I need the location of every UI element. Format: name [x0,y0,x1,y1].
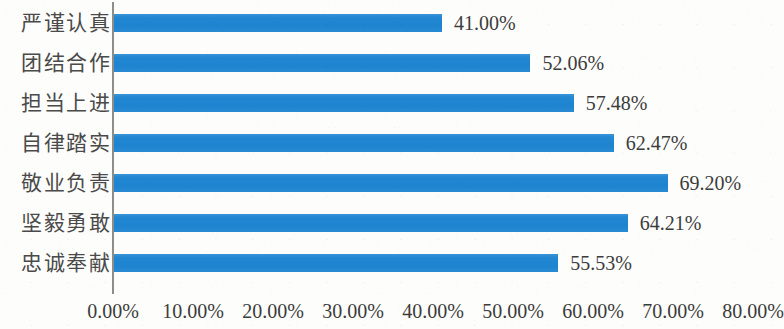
bar-value-label: 64.21% [640,213,702,233]
category-label: 团结合作 [21,53,111,74]
x-tick-label: 30.00% [322,301,384,321]
bar-track [114,134,614,152]
category-label: 坚毅勇敢 [21,213,111,234]
bar-row: 自律踏实 62.47% [0,123,783,163]
x-axis: 0.00% 10.00% 20.00% 30.00% 40.00% 50.00%… [0,297,783,329]
x-tick-label: 70.00% [642,301,704,321]
bar-value-label: 69.20% [680,173,742,193]
bar-fill[interactable] [114,94,574,112]
bar-row: 敬业负责 69.20% [0,163,783,203]
bar-value-label: 52.06% [542,53,604,73]
category-label: 担当上进 [21,93,111,114]
category-label: 自律踏实 [21,133,111,154]
bar-value-label: 55.53% [570,253,632,273]
bar-track [114,54,530,72]
bar-value-label: 41.00% [454,13,516,33]
bar-fill[interactable] [114,174,668,192]
x-tick-label: 80.00% [722,301,784,321]
bar-value-label: 57.48% [586,93,648,113]
bar-fill[interactable] [114,214,628,232]
bar-row: 团结合作 52.06% [0,43,783,83]
bar-track [114,14,442,32]
bar-row: 担当上进 57.48% [0,83,783,123]
bar-value-label: 62.47% [626,133,688,153]
category-label: 严谨认真 [21,13,111,34]
bar-row: 严谨认真 41.00% [0,3,783,43]
bar-row: 忠诚奉献 55.53% [0,243,783,283]
bar-row: 坚毅勇敢 64.21% [0,203,783,243]
x-tick-label: 40.00% [402,301,464,321]
plot-area: 严谨认真 41.00% 团结合作 52.06% 担当上进 57.48% 自律踏实 [0,0,783,297]
bar-track [114,94,574,112]
x-tick-label: 0.00% [87,301,139,321]
x-tick-label: 10.00% [162,301,224,321]
x-tick-label: 60.00% [562,301,624,321]
bar-fill[interactable] [114,254,558,272]
x-tick-label: 20.00% [242,301,304,321]
bar-fill[interactable] [114,54,530,72]
bar-fill[interactable] [114,134,614,152]
bar-track [114,214,628,232]
category-label: 忠诚奉献 [21,253,111,274]
category-label: 敬业负责 [21,173,111,194]
x-tick-label: 50.00% [482,301,544,321]
bar-track [114,174,668,192]
bar-fill[interactable] [114,14,442,32]
bar-track [114,254,558,272]
